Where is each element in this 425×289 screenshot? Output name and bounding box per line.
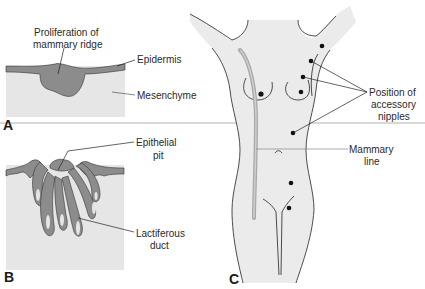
panel-c: Position of accessory nipples Mammary li…: [190, 6, 416, 287]
label-pit: pit: [153, 150, 164, 161]
label-proliferation-1: Proliferation of: [34, 27, 99, 38]
panel-a: Proliferation of mammary ridge Epidermis…: [3, 27, 197, 133]
mammary-development-figure: Proliferation of mammary ridge Epidermis…: [0, 0, 425, 289]
epithelial-pit-leader-2: [68, 142, 134, 151]
epidermis-leader: [117, 60, 135, 66]
accessory-nipple: [289, 181, 294, 186]
label-nipples: nipples: [378, 111, 410, 122]
accessory-nipple: [320, 44, 325, 49]
label-epithelial: Epithelial: [136, 137, 177, 148]
panel-label-c: C: [229, 271, 239, 287]
accessory-nipple: [287, 206, 292, 211]
label-epidermis: Epidermis: [137, 54, 181, 65]
label-position-of: Position of: [369, 87, 416, 98]
label-proliferation-2: mammary ridge: [33, 39, 103, 50]
label-mesenchyme: Mesenchyme: [137, 90, 197, 101]
label-duct: duct: [150, 240, 169, 251]
normal-nipple-left: [258, 91, 263, 96]
panel-label-a: A: [3, 117, 13, 133]
label-lactiferous: Lactiferous: [136, 228, 185, 239]
panel-label-b: B: [4, 269, 14, 285]
panel-b: Epithelial pit Lactiferous duct B: [4, 137, 185, 285]
accessory-nipple: [299, 90, 304, 95]
body-silhouette: [190, 6, 356, 283]
label-accessory: accessory: [371, 99, 416, 110]
label-line: line: [364, 156, 380, 167]
label-mammary: Mammary: [349, 144, 393, 155]
